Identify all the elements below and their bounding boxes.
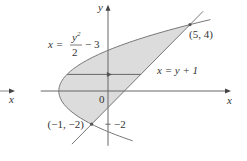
x-axis-label: x (226, 94, 232, 106)
parabola-eq-exponent: 2 (77, 30, 81, 38)
intersection-label: (−1, −2) (48, 118, 85, 131)
intersection-point (90, 123, 93, 126)
parabola-eq-denominator: 2 (72, 46, 78, 58)
y-axis-label: y (97, 1, 103, 13)
parabola-equation: x = y 2 2 − 3 (47, 30, 100, 58)
intersection-label: (5, 4) (189, 28, 213, 41)
line-equation: x = y + 1 (156, 64, 198, 76)
intersection-point (188, 23, 191, 26)
region-diagram: x x y −2 0 (5, 4) (−1, −2) x = y 2 2 − 3… (0, 0, 247, 161)
side-x-label: x (8, 93, 14, 105)
origin-label: 0 (99, 93, 105, 105)
y-tick-label: −2 (114, 118, 126, 130)
parabola-eq-lhs: x = (47, 38, 63, 50)
parabola-eq-rest: − 3 (85, 38, 100, 50)
